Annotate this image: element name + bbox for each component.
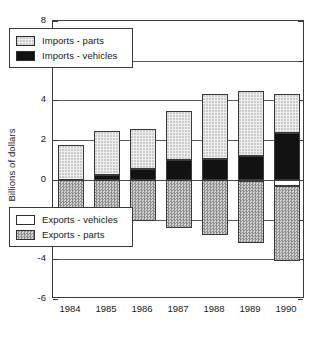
legend-row: Exports - parts (16, 227, 125, 242)
legend-swatch-imp-parts (16, 36, 35, 46)
bar-1987 (166, 21, 192, 299)
bar-segment-exports-parts (238, 181, 264, 244)
bar-segment-exports-parts (202, 180, 228, 236)
bar-segment-imports-parts (202, 94, 228, 159)
legend-label: Exports - parts (42, 229, 105, 240)
y-axis-tick (53, 299, 58, 300)
bar-1988 (202, 21, 228, 299)
y-axis-tick-label: 0 (8, 174, 46, 184)
bar-1989 (238, 21, 264, 299)
chart-figure: Billions of dollars 86420-2-4-6 Imports … (0, 0, 319, 337)
legend-label: Exports - vehicles (42, 214, 118, 225)
y-axis-tick (298, 299, 303, 300)
legend-swatch-exp-parts (16, 230, 35, 240)
bar-segment-exports-parts (58, 180, 84, 208)
x-axis-tick-label: 1984 (50, 303, 90, 314)
legend-row: Imports - parts (16, 33, 125, 48)
x-axis-tick-label: 1986 (122, 303, 162, 314)
bar-segment-imports-vehicles (274, 133, 300, 180)
bar-segment-imports-vehicles (202, 159, 228, 180)
bar-1986 (130, 21, 156, 299)
bar-1990 (274, 21, 300, 299)
y-axis-tick-label: 8 (8, 15, 46, 25)
legend-label: Imports - vehicles (42, 50, 117, 61)
x-axis-tick-label: 1987 (158, 303, 198, 314)
legend-row: Imports - vehicles (16, 48, 125, 63)
bar-segment-imports-parts (166, 111, 192, 160)
y-axis-tick-label: 2 (8, 134, 46, 144)
bar-segment-imports-parts (94, 131, 120, 175)
legend-swatch-imp-veh (16, 51, 35, 61)
bar-segment-imports-parts (238, 91, 264, 157)
bar-segment-imports-parts (274, 94, 300, 133)
bar-segment-exports-parts (130, 180, 156, 221)
legend-row: Exports - vehicles (16, 212, 125, 227)
x-axis-tick-label: 1988 (194, 303, 234, 314)
legend-swatch-exp-veh (16, 215, 35, 225)
x-axis-tick-labels: 1984198519861987198819891990 (52, 303, 304, 317)
legend-exports: Exports - vehiclesExports - parts (9, 207, 133, 247)
legend-imports: Imports - partsImports - vehicles (9, 28, 133, 68)
x-axis-tick-label: 1985 (86, 303, 126, 314)
bar-segment-imports-vehicles (130, 169, 156, 180)
bar-segment-exports-parts (274, 186, 300, 261)
x-axis-tick-label: 1989 (230, 303, 270, 314)
x-axis-tick-label: 1990 (266, 303, 306, 314)
bar-segment-exports-parts (166, 180, 192, 229)
y-axis-tick-label: -4 (8, 253, 46, 263)
bar-segment-imports-vehicles (238, 156, 264, 180)
legend-label: Imports - parts (42, 35, 104, 46)
bar-segment-imports-vehicles (166, 160, 192, 180)
bar-segment-imports-parts (130, 129, 156, 169)
y-axis-tick-label: -6 (8, 293, 46, 303)
y-axis-tick-label: 4 (8, 94, 46, 104)
bar-segment-imports-parts (58, 145, 84, 180)
